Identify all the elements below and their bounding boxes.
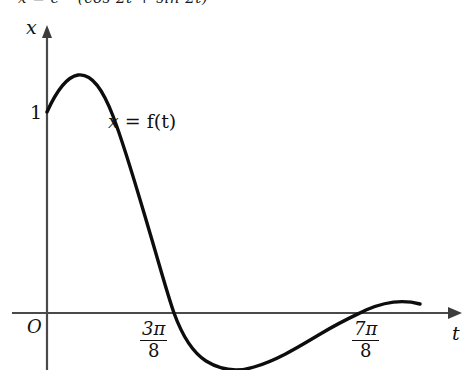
curve-label-function: f(t) xyxy=(147,110,177,132)
plot-svg xyxy=(0,0,464,370)
curve-label-x: x xyxy=(108,110,119,132)
y-axis-label: x xyxy=(26,16,37,38)
figure-container: x = e⁻ᵗ (cos 2t + sin 2t) x t 1 O x = f(… xyxy=(0,0,464,370)
x-tick-label-7pi-over-8: 7π 8 xyxy=(352,320,379,361)
x-axis-label: t xyxy=(452,322,460,344)
tick-b-denominator: 8 xyxy=(358,342,373,361)
tick-b-numerator: 7π xyxy=(352,320,379,339)
origin-label: O xyxy=(27,316,42,337)
x-axis-arrowhead xyxy=(448,307,462,319)
tick-a-numerator: 3π xyxy=(140,320,167,339)
curve-label-equals: = xyxy=(125,110,141,132)
y-tick-label-one: 1 xyxy=(30,101,42,123)
y-axis-arrowhead xyxy=(42,25,52,38)
tick-a-denominator: 8 xyxy=(146,342,161,361)
curve-equation-label: x = f(t) xyxy=(108,110,176,132)
x-tick-label-3pi-over-8: 3π 8 xyxy=(140,320,167,361)
